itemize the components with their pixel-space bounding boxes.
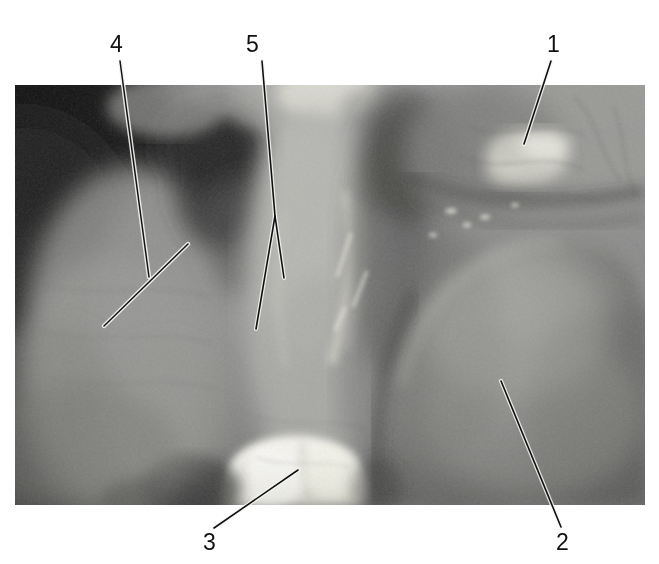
callout-label-4: 4 (110, 33, 123, 56)
figure-container: 4 5 1 3 2 (0, 0, 659, 564)
photograph-canvas (15, 85, 645, 505)
callout-label-5: 5 (246, 33, 259, 56)
callout-label-1: 1 (547, 33, 560, 56)
photograph (15, 85, 645, 505)
callout-label-3: 3 (203, 531, 216, 554)
callout-label-2: 2 (556, 531, 569, 554)
